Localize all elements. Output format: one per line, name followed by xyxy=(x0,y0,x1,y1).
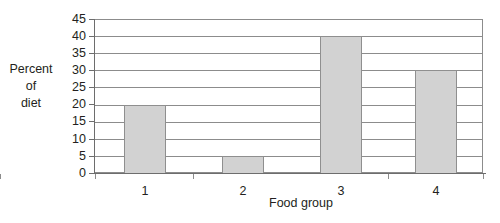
bar-food-group-3 xyxy=(320,36,362,174)
y-tick-35 xyxy=(89,53,95,54)
y-tick-label-15: 15 xyxy=(72,115,86,128)
bar-chart: Percent of diet 45 40 35 30 25 20 15 10 … xyxy=(0,0,500,223)
y-tick-40 xyxy=(89,36,95,37)
y-axis-title-line-1: Percent xyxy=(2,61,60,78)
x-tick-1 xyxy=(193,174,194,179)
y-tick-label-30: 30 xyxy=(72,64,86,77)
y-tick-5 xyxy=(89,156,95,157)
y-axis-title-line-3: diet xyxy=(2,95,60,112)
bar-food-group-2 xyxy=(222,156,264,174)
gridline-35 xyxy=(95,53,482,54)
y-tick-label-35: 35 xyxy=(72,47,86,60)
y-tick-30 xyxy=(89,70,95,71)
x-tick-label-1: 1 xyxy=(125,184,165,198)
y-tick-label-0: 0 xyxy=(79,167,86,180)
y-tick-label-10: 10 xyxy=(72,133,86,146)
x-tick-4 xyxy=(483,174,484,179)
bar-food-group-1 xyxy=(124,105,166,174)
x-axis-line xyxy=(89,173,486,174)
y-axis-title-line-2: of xyxy=(2,78,60,95)
y-axis-line xyxy=(94,19,95,174)
x-tick-2 xyxy=(0,174,1,179)
y-tick-label-40: 40 xyxy=(72,30,86,43)
y-tick-label-45: 45 xyxy=(72,13,86,26)
x-axis-title: Food group xyxy=(221,196,381,211)
y-tick-label-5: 5 xyxy=(79,150,86,163)
x-tick-label-4: 4 xyxy=(416,184,456,198)
y-tick-20 xyxy=(89,104,95,105)
y-tick-15 xyxy=(89,121,95,122)
x-tick-3 xyxy=(388,174,389,179)
gridline-40 xyxy=(95,36,482,37)
y-tick-45 xyxy=(89,19,95,20)
y-tick-label-20: 20 xyxy=(72,98,86,111)
bar-food-group-4 xyxy=(415,70,457,174)
y-tick-10 xyxy=(89,139,95,140)
y-tick-25 xyxy=(89,87,95,88)
x-tick-0 xyxy=(95,174,96,179)
y-axis-title: Percent of diet xyxy=(2,61,60,112)
y-tick-label-25: 25 xyxy=(72,81,86,94)
